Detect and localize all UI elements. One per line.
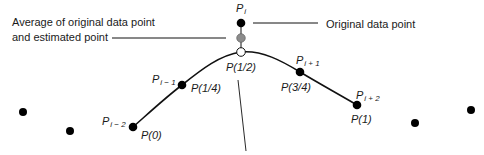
- data-point-left: [66, 127, 74, 135]
- point-p-quarter: [178, 81, 187, 90]
- label-p-half: P(1/2): [226, 62, 256, 73]
- label-p-i-plus-2: Pi + 2: [356, 90, 380, 103]
- label-p-i: Pi: [236, 3, 246, 16]
- label-p-i-minus-1: Pi − 1: [152, 74, 176, 87]
- average-annotation-line2: and estimated point: [12, 30, 155, 45]
- label-p-quarter: P(1/4): [191, 83, 221, 94]
- data-point-far-left: [19, 108, 27, 116]
- average-annotation: Average of original data point and estim…: [12, 15, 155, 45]
- point-p0: [129, 123, 138, 132]
- midpoint-pointer-line: [238, 80, 246, 151]
- label-p-i-plus-1: Pi + 1: [296, 55, 320, 68]
- data-point-far-right: [467, 106, 475, 114]
- average-point-dot: [237, 34, 246, 43]
- label-p1: P(1): [351, 114, 372, 125]
- label-p-three-quarter: P(3/4): [281, 82, 311, 93]
- original-annotation: Original data point: [326, 17, 415, 32]
- estimated-point-dot: [237, 48, 246, 57]
- label-p0: P(0): [141, 130, 162, 141]
- data-point-right: [411, 119, 419, 127]
- label-p-i-minus-2: Pi − 2: [102, 116, 126, 129]
- point-p-three-quarter: [296, 68, 305, 77]
- average-annotation-line1: Average of original data point: [12, 15, 155, 30]
- original-point-dot: [237, 19, 246, 28]
